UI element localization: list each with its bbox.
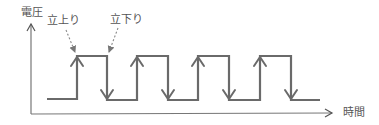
rising-edge-pointer (66, 30, 75, 52)
y-axis-label: 電圧 (21, 7, 43, 18)
rising-edge-label: 立上り (47, 15, 80, 26)
falling-edge-pointer (109, 28, 118, 52)
x-axis (31, 113, 332, 114)
square-wave-signal (47, 56, 320, 100)
x-axis-label: 時間 (343, 107, 365, 118)
falling-edge-label: 立下り (110, 14, 143, 25)
